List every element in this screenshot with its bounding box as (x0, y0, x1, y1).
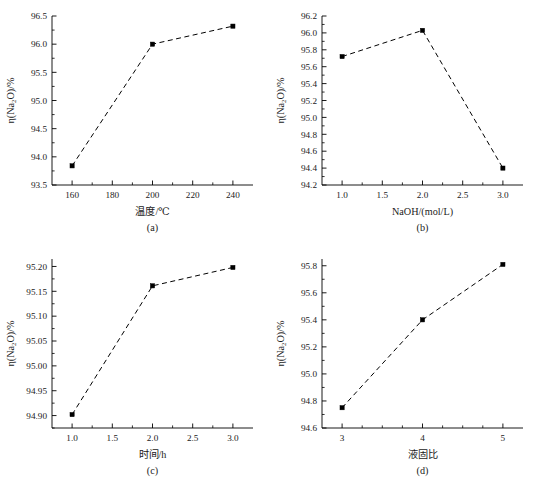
x-tick-label: 3 (340, 433, 345, 443)
chart-svg-d: 34594.694.895.095.295.495.695.8液固比(d)η(N… (270, 243, 539, 486)
y-tick-label: 95.15 (26, 287, 47, 297)
panel-caption-d: (d) (417, 465, 429, 477)
y-tick-label: 95.20 (26, 262, 47, 272)
y-tick-label: 94.8 (301, 396, 317, 406)
y-tick-label: 95.4 (301, 79, 317, 89)
x-tick-label: 4 (420, 433, 425, 443)
data-point-marker (501, 166, 505, 170)
data-point-marker (70, 164, 74, 168)
x-tick-label: 2.5 (187, 433, 199, 443)
y-tick-label: 96.0 (301, 28, 317, 38)
axes-spines-a (52, 16, 253, 185)
panel-caption-c: (c) (147, 465, 158, 477)
y-axis-title-a: η(Na2O)/% (5, 77, 17, 123)
panel-caption-b: (b) (417, 222, 429, 234)
y-tick-label: 94.4 (301, 163, 317, 173)
chart-panel-c: 1.01.52.02.53.094.9094.9595.0095.0595.10… (0, 243, 269, 486)
x-tick-label: 180 (105, 190, 119, 200)
y-axis-title-d: η(Na2O)/% (275, 320, 287, 366)
x-tick-label: 160 (65, 190, 79, 200)
data-line-d (342, 264, 503, 407)
y-tick-label: 94.95 (26, 386, 47, 396)
y-tick-label: 95.0 (31, 96, 47, 106)
x-axis-title-c: 时间/h (139, 448, 167, 460)
x-tick-label: 1.0 (336, 190, 348, 200)
chart-panel-d: 34594.694.895.095.295.495.695.8液固比(d)η(N… (270, 243, 539, 486)
y-tick-label: 96.2 (301, 11, 317, 21)
x-tick-label: 5 (501, 433, 506, 443)
data-point-marker (150, 42, 154, 46)
x-axis-ticks-d: 345 (340, 424, 506, 444)
x-tick-label: 1.5 (107, 433, 119, 443)
y-tick-label: 96.5 (31, 11, 47, 21)
x-tick-label: 1.0 (66, 433, 78, 443)
y-tick-label: 94.90 (26, 411, 47, 421)
y-tick-label: 95.6 (301, 62, 317, 72)
data-point-marker (70, 412, 74, 416)
chart-svg-b: 1.01.52.02.53.094.294.494.694.895.095.29… (270, 0, 539, 243)
y-tick-label: 94.8 (301, 130, 317, 140)
y-tick-label: 95.05 (26, 336, 47, 346)
chart-panel-b: 1.01.52.02.53.094.294.494.694.895.095.29… (270, 0, 539, 243)
svg-text:η(Na2O)/%: η(Na2O)/% (275, 320, 287, 366)
axes-spines-d (322, 259, 523, 428)
x-tick-label: 3.0 (497, 190, 509, 200)
y-tick-label: 95.2 (301, 96, 317, 106)
y-axis-ticks-a: 93.594.094.595.095.596.096.5 (31, 11, 57, 190)
x-axis-ticks-c: 1.01.52.02.53.0 (66, 424, 239, 444)
y-tick-label: 95.8 (301, 261, 317, 271)
data-line-c (72, 267, 233, 414)
data-point-marker (420, 318, 424, 322)
svg-text:η(Na2O)/%: η(Na2O)/% (5, 77, 17, 123)
y-tick-label: 95.10 (26, 311, 47, 321)
axes-spines-b (322, 16, 523, 185)
x-tick-label: 2.5 (457, 190, 469, 200)
x-axis-ticks-a: 160180200220240 (65, 181, 240, 201)
y-tick-label: 94.6 (301, 423, 317, 433)
y-tick-label: 95.6 (301, 288, 317, 298)
chart-panel-a: 16018020022024093.594.094.595.095.596.09… (0, 0, 269, 243)
data-point-marker (150, 284, 154, 288)
y-axis-ticks-b: 94.294.494.694.895.095.295.495.695.896.0… (301, 11, 327, 190)
svg-text:η(Na2O)/%: η(Na2O)/% (275, 77, 287, 123)
y-axis-title-b: η(Na2O)/% (275, 77, 287, 123)
y-tick-label: 95.2 (301, 342, 317, 352)
data-line-b (342, 30, 503, 168)
data-point-marker (420, 28, 424, 32)
data-point-marker (340, 406, 344, 410)
x-tick-label: 2.0 (417, 190, 429, 200)
y-tick-label: 94.2 (301, 180, 317, 190)
y-tick-label: 95.0 (301, 113, 317, 123)
x-tick-label: 200 (146, 190, 160, 200)
x-tick-label: 3.0 (227, 433, 239, 443)
data-point-marker (231, 24, 235, 28)
x-tick-label: 240 (226, 190, 240, 200)
y-tick-label: 95.0 (301, 369, 317, 379)
x-tick-label: 1.5 (377, 190, 389, 200)
y-tick-label: 93.5 (31, 180, 47, 190)
data-point-marker (231, 265, 235, 269)
y-tick-label: 95.4 (301, 315, 317, 325)
y-tick-label: 96.0 (31, 39, 47, 49)
chart-svg-c: 1.01.52.02.53.094.9094.9595.0095.0595.10… (0, 243, 269, 486)
y-axis-ticks-d: 94.694.895.095.295.495.695.8 (301, 261, 327, 433)
data-point-marker (340, 54, 344, 58)
x-tick-label: 220 (186, 190, 200, 200)
y-tick-label: 95.8 (301, 45, 317, 55)
y-tick-label: 95.5 (31, 68, 47, 78)
figure-four-panel-chart: 16018020022024093.594.094.595.095.596.09… (0, 0, 539, 487)
y-axis-title-c: η(Na2O)/% (5, 320, 17, 366)
x-axis-title-d: 液固比 (408, 448, 438, 460)
svg-text:η(Na2O)/%: η(Na2O)/% (5, 320, 17, 366)
panel-caption-a: (a) (147, 222, 158, 234)
x-axis-title-a: 温度/℃ (135, 205, 169, 217)
y-tick-label: 94.0 (31, 152, 47, 162)
data-line-a (72, 26, 233, 166)
x-tick-label: 2.0 (147, 433, 159, 443)
x-axis-title-b: NaOH/(mol/L) (392, 206, 453, 218)
x-axis-ticks-b: 1.01.52.02.53.0 (336, 181, 509, 201)
y-tick-label: 94.5 (31, 124, 47, 134)
y-tick-label: 94.6 (301, 146, 317, 156)
data-point-marker (501, 262, 505, 266)
chart-svg-a: 16018020022024093.594.094.595.095.596.09… (0, 0, 269, 243)
